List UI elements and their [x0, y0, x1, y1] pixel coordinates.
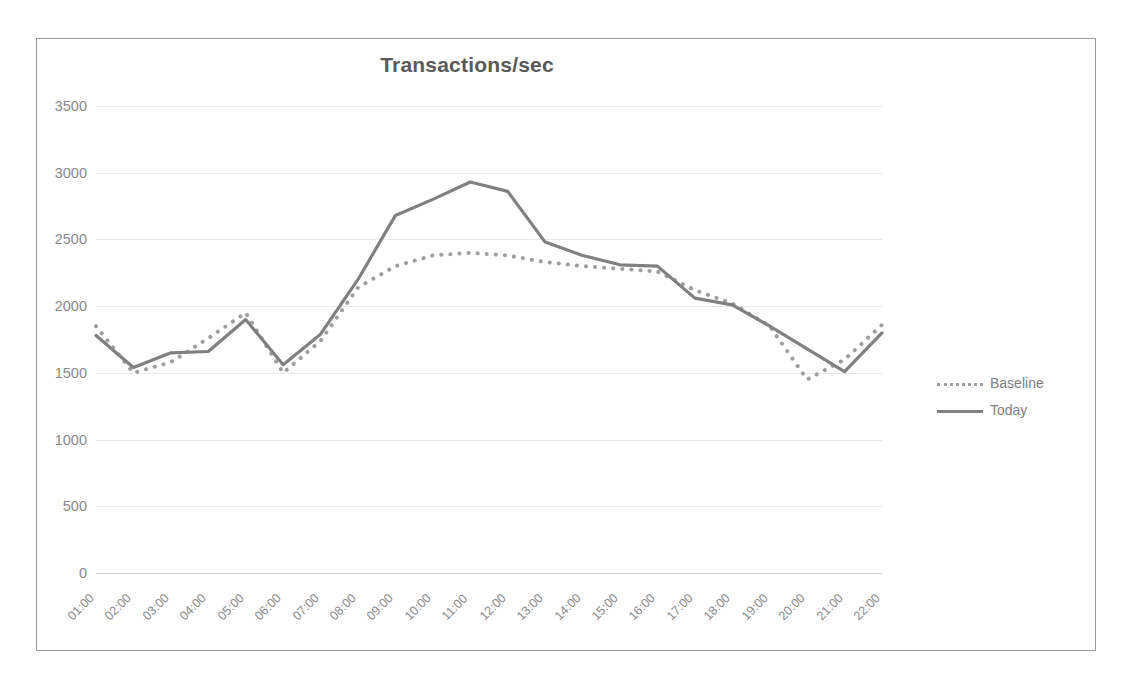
- x-axis-tick-label: 04:00: [177, 591, 209, 623]
- x-axis-tick-label: 18:00: [701, 591, 733, 623]
- legend-item-label: Baseline: [990, 375, 1044, 391]
- x-axis-tick-label: 11:00: [439, 592, 470, 623]
- x-axis-tick-label: 16:00: [626, 591, 658, 623]
- y-axis-tick-label: 500: [63, 498, 87, 514]
- y-axis-tick-label: 3500: [55, 98, 87, 114]
- series-line-baseline: [96, 253, 882, 380]
- x-axis-tick-label: 12:00: [477, 591, 509, 623]
- x-axis-tick-label: 10:00: [402, 591, 434, 623]
- y-axis-tick-label: 3000: [55, 165, 87, 181]
- y-axis-tick-label: 1500: [55, 365, 87, 381]
- y-axis-tick-label: 2000: [55, 298, 87, 314]
- x-axis-tick-label: 17:00: [664, 591, 696, 623]
- x-axis-tick-label: 14:00: [551, 591, 583, 623]
- x-axis-tick-label: 13:00: [514, 591, 546, 623]
- chart-legend: BaselineToday: [937, 369, 1044, 423]
- x-axis-tick-label: 01:00: [65, 591, 97, 623]
- x-axis-tick-label: 08:00: [327, 591, 359, 623]
- x-axis-tick-label: 06:00: [252, 591, 284, 623]
- chart-title: Transactions/sec: [37, 53, 897, 77]
- series-line-today: [96, 182, 882, 371]
- x-axis-tick-label: 21:00: [813, 591, 845, 623]
- x-axis-tick-label: 05:00: [215, 591, 247, 623]
- y-axis-tick-label: 0: [79, 565, 87, 581]
- x-axis-tick-label: 19:00: [739, 591, 771, 623]
- legend-swatch-icon: [937, 377, 983, 389]
- x-axis-tick-label: 07:00: [289, 591, 321, 623]
- legend-item-today[interactable]: Today: [937, 396, 1044, 423]
- y-axis-tick-label: 2500: [55, 231, 87, 247]
- x-axis-tick-label: 09:00: [364, 591, 396, 623]
- series-lines: [96, 106, 882, 573]
- chart-frame: Transactions/sec 05001000150020002500300…: [36, 38, 1096, 651]
- x-axis-tick-label: 15:00: [589, 591, 621, 623]
- legend-item-label: Today: [990, 402, 1027, 418]
- y-axis-tick-label: 1000: [55, 432, 87, 448]
- x-axis-tick-label: 22:00: [851, 591, 883, 623]
- legend-swatch-icon: [937, 404, 983, 416]
- x-axis-tick-label: 03:00: [140, 591, 172, 623]
- x-axis-tick-label: 20:00: [776, 591, 808, 623]
- plot-area: 0500100015002000250030003500 01:0002:000…: [96, 106, 882, 573]
- legend-item-baseline[interactable]: Baseline: [937, 369, 1044, 396]
- x-axis-tick-label: 02:00: [102, 591, 134, 623]
- gridline: [96, 573, 882, 574]
